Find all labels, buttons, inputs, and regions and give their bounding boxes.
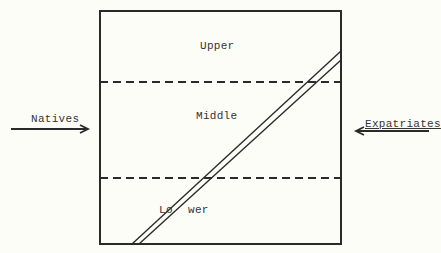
expatriates-label: Expatriates: [365, 118, 441, 130]
middle-class-label: Middle: [196, 110, 237, 122]
lower-class-label-left: Lo: [159, 204, 173, 216]
upper-class-label: Upper: [200, 40, 235, 52]
lower-class-label-right: wer: [188, 204, 209, 216]
natives-arrow-icon: [11, 125, 88, 133]
natives-label: Natives: [31, 113, 79, 125]
diagonal-line-b: [139, 60, 341, 244]
